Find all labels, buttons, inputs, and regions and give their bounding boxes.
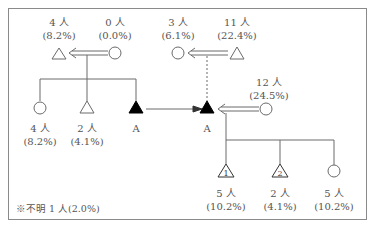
a-text: A — [111, 122, 161, 135]
pct-text: (8.2%) — [15, 135, 65, 148]
pct-text: (6.1%) — [153, 29, 203, 42]
count-text: 2 人 — [62, 122, 112, 135]
a-right-label: A — [182, 122, 232, 135]
mgf-label: 11 人 (22.4%) — [212, 16, 262, 42]
pct-text: (4.1%) — [62, 135, 112, 148]
circle-icon — [328, 165, 340, 177]
filled-triangle-icon — [200, 101, 214, 113]
mgm-label: 3 人 (6.1%) — [153, 16, 203, 42]
circle-icon — [109, 47, 121, 59]
count-text: 12 人 — [244, 76, 294, 89]
circle-icon — [172, 47, 184, 59]
count-text: 5 人 — [201, 187, 251, 200]
triangle-icon — [230, 47, 244, 59]
circle-icon — [260, 103, 272, 115]
pgm-label: 4 人 (8.2%) — [34, 16, 84, 42]
unknown-note: ※不明 1 人(2.0%) — [16, 201, 100, 215]
pct-text: (4.1%) — [255, 200, 305, 213]
spouse-label: 12 人 (24.5%) — [244, 76, 294, 102]
count-text: 0 人 — [90, 16, 140, 29]
count-text: 5 人 — [309, 187, 359, 200]
triangle-icon — [52, 48, 66, 59]
child1-number: 1 — [223, 169, 228, 178]
child2-label: 2 人 (4.1%) — [255, 187, 305, 213]
circle-icon — [34, 102, 46, 114]
pct-text: (10.2%) — [201, 200, 251, 213]
count-text: 4 人 — [15, 122, 65, 135]
sib-circle-label: 4 人 (8.2%) — [15, 122, 65, 148]
pct-text: (10.2%) — [309, 200, 359, 213]
count-text: 3 人 — [153, 16, 203, 29]
filled-triangle-icon — [129, 101, 143, 113]
child2-number: 2 — [277, 169, 282, 178]
count-text: 2 人 — [255, 187, 305, 200]
pgf-label: 0 人 (0.0%) — [90, 16, 140, 42]
triangle-icon — [80, 101, 94, 113]
count-text: 4 人 — [34, 16, 84, 29]
a-left-label: A — [111, 122, 161, 135]
sib-triangle-label: 2 人 (4.1%) — [62, 122, 112, 148]
pct-text: (22.4%) — [212, 29, 262, 42]
child1-label: 5 人 (10.2%) — [201, 187, 251, 213]
pct-text: (0.0%) — [90, 29, 140, 42]
pct-text: (8.2%) — [34, 29, 84, 42]
child3-label: 5 人 (10.2%) — [309, 187, 359, 213]
pct-text: (24.5%) — [244, 89, 294, 102]
count-text: 11 人 — [212, 16, 262, 29]
a-text: A — [182, 122, 232, 135]
